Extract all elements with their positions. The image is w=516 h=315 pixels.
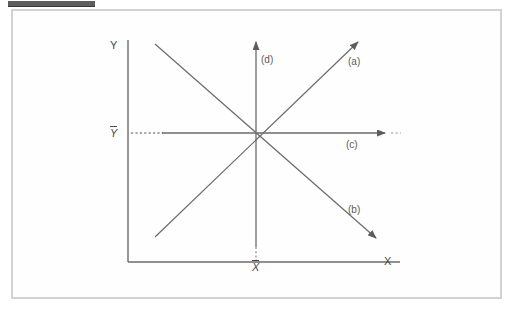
y-mean-tick-label: Y bbox=[110, 128, 117, 139]
figure-page: Y X Y X (a) (b) (c) (d) bbox=[0, 0, 516, 315]
x-axis-title: X bbox=[384, 256, 391, 267]
x-mean-tick-label: X bbox=[252, 262, 259, 273]
y-axis-title: Y bbox=[110, 40, 117, 51]
line-label-a: (a) bbox=[348, 57, 360, 67]
line-label-b: (b) bbox=[348, 205, 360, 215]
x-mean-overbar-text: X bbox=[252, 262, 259, 273]
line-label-c: (c) bbox=[346, 140, 358, 150]
line-label-d: (d) bbox=[261, 55, 273, 65]
line-b-negative-correlation bbox=[155, 44, 376, 238]
y-mean-overbar-text: Y bbox=[110, 128, 117, 139]
